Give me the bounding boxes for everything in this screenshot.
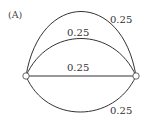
node-right (133, 73, 139, 79)
multigraph-diagram: (A) 0.25 0.25 0.25 0.25 (0, 0, 149, 127)
panel-label: (A) (8, 9, 22, 20)
edge-label-bottom-arc: 0.25 (110, 105, 132, 116)
edge-label-straight-middle: 0.25 (67, 62, 89, 73)
edge-label-inner-top-arc: 0.25 (67, 27, 89, 38)
edge-label-outer-top-arc: 0.25 (110, 14, 132, 25)
node-left (23, 73, 29, 79)
